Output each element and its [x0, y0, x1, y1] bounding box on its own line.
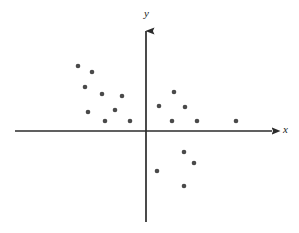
data-point [76, 64, 81, 69]
plot-canvas [0, 0, 299, 233]
data-point [170, 119, 175, 124]
data-point [172, 90, 177, 95]
data-point [83, 85, 88, 90]
data-point [100, 92, 105, 97]
axes-group [15, 31, 272, 222]
data-point [182, 184, 187, 189]
scatter-plot-figure: y x [0, 0, 299, 233]
data-point [103, 119, 108, 124]
data-point [155, 169, 160, 174]
data-point [192, 161, 197, 166]
data-point [182, 150, 187, 155]
data-point [86, 110, 91, 115]
y-axis-label: y [144, 8, 149, 19]
x-axis-label: x [283, 124, 288, 135]
data-point [128, 119, 133, 124]
data-point [113, 108, 118, 113]
data-point [90, 70, 95, 75]
data-point [183, 105, 188, 110]
data-point [157, 104, 162, 109]
data-point [120, 94, 125, 99]
data-point [195, 119, 200, 124]
data-points-group [76, 64, 239, 189]
data-point [234, 119, 239, 124]
